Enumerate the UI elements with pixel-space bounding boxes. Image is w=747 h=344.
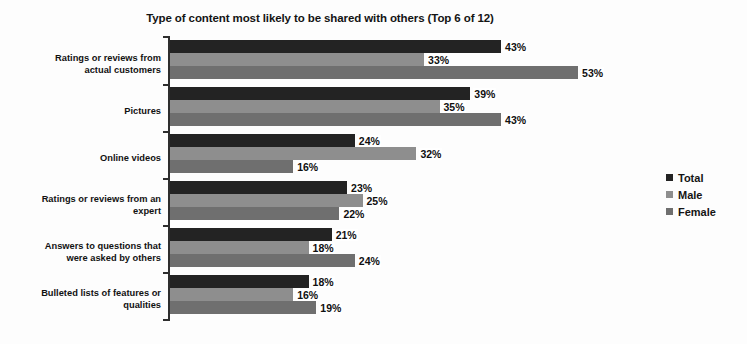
legend-swatch-icon bbox=[666, 191, 673, 198]
bar-row: 18% bbox=[170, 275, 640, 288]
bar-row: 16% bbox=[170, 288, 640, 301]
bar-row: 35% bbox=[170, 100, 640, 113]
category-label-line: were asked by others bbox=[1, 252, 161, 265]
axis-tick bbox=[163, 272, 169, 274]
bar-male[interactable] bbox=[170, 53, 424, 66]
bar-row: 24% bbox=[170, 134, 640, 147]
axis-tick-bottom bbox=[163, 319, 169, 321]
category-label-line: qualities bbox=[1, 299, 161, 312]
category-label-line: actual customers bbox=[1, 64, 161, 77]
bar-row: 25% bbox=[170, 194, 640, 207]
bar-row: 24% bbox=[170, 254, 640, 267]
bar-row: 39% bbox=[170, 87, 640, 100]
bar-male[interactable] bbox=[170, 194, 363, 207]
bar-female[interactable] bbox=[170, 113, 501, 126]
bar-group: Ratings or reviews fromactual customers4… bbox=[170, 40, 640, 87]
axis-tick bbox=[163, 225, 169, 227]
legend-item-female[interactable]: Female bbox=[666, 204, 746, 219]
bar-value-label: 43% bbox=[504, 114, 527, 126]
legend-item-male[interactable]: Male bbox=[666, 187, 746, 202]
bar-total[interactable] bbox=[170, 228, 332, 241]
bar-value-label: 43% bbox=[504, 41, 527, 53]
bar-value-label: 22% bbox=[342, 208, 365, 220]
category-label: Ratings or reviews fromactual customers bbox=[1, 51, 161, 76]
bar-row: 18% bbox=[170, 241, 640, 254]
bar-value-label: 19% bbox=[319, 302, 342, 314]
bar-row: 16% bbox=[170, 160, 640, 173]
bar-female[interactable] bbox=[170, 301, 316, 314]
axis-tick bbox=[163, 178, 169, 180]
legend-label: Total bbox=[678, 172, 703, 184]
chart-title: Type of content most likely to be shared… bbox=[0, 12, 640, 24]
axis-tick bbox=[163, 84, 169, 86]
bar-male[interactable] bbox=[170, 147, 416, 160]
category-label: Pictures bbox=[1, 104, 161, 117]
bar-male[interactable] bbox=[170, 100, 440, 113]
bar-value-label: 21% bbox=[335, 229, 358, 241]
plot-area: Ratings or reviews fromactual customers4… bbox=[170, 38, 640, 320]
category-label-line: Ratings or reviews from an bbox=[1, 192, 161, 205]
bar-total[interactable] bbox=[170, 275, 309, 288]
bar-row: 21% bbox=[170, 228, 640, 241]
bar-row: 23% bbox=[170, 181, 640, 194]
chart-legend: TotalMaleFemale bbox=[666, 170, 746, 221]
category-label-line: Answers to questions that bbox=[1, 239, 161, 252]
category-label-line: Ratings or reviews from bbox=[1, 51, 161, 64]
legend-swatch-icon bbox=[666, 174, 673, 181]
bar-row: 43% bbox=[170, 40, 640, 53]
bar-group: Online videos24%32%16% bbox=[170, 134, 640, 181]
bar-value-label: 23% bbox=[350, 182, 373, 194]
category-label: Online videos bbox=[1, 151, 161, 164]
bar-total[interactable] bbox=[170, 87, 470, 100]
category-label-line: Pictures bbox=[1, 104, 161, 117]
bar-group: Answers to questions thatwere asked by o… bbox=[170, 228, 640, 275]
category-label-line: Online videos bbox=[1, 151, 161, 164]
bar-value-label: 16% bbox=[296, 289, 319, 301]
bar-total[interactable] bbox=[170, 134, 355, 147]
bar-value-label: 16% bbox=[296, 161, 319, 173]
category-label: Ratings or reviews from anexpert bbox=[1, 192, 161, 217]
bar-female[interactable] bbox=[170, 66, 578, 79]
bar-row: 53% bbox=[170, 66, 640, 79]
bar-male[interactable] bbox=[170, 288, 293, 301]
bar-row: 43% bbox=[170, 113, 640, 126]
bar-row: 22% bbox=[170, 207, 640, 220]
bar-value-label: 32% bbox=[419, 148, 442, 160]
bar-female[interactable] bbox=[170, 254, 355, 267]
bar-total[interactable] bbox=[170, 181, 347, 194]
bar-group: Ratings or reviews from anexpert23%25%22… bbox=[170, 181, 640, 228]
category-label: Answers to questions thatwere asked by o… bbox=[1, 239, 161, 264]
bar-value-label: 18% bbox=[312, 242, 335, 254]
legend-item-total[interactable]: Total bbox=[666, 170, 746, 185]
bar-value-label: 24% bbox=[358, 135, 381, 147]
bar-total[interactable] bbox=[170, 40, 501, 53]
legend-label: Male bbox=[678, 189, 702, 201]
category-label: Bulleted lists of features orqualities bbox=[1, 286, 161, 311]
bar-row: 32% bbox=[170, 147, 640, 160]
bar-male[interactable] bbox=[170, 241, 309, 254]
bar-value-label: 33% bbox=[427, 54, 450, 66]
bar-value-label: 35% bbox=[443, 101, 466, 113]
bar-value-label: 39% bbox=[473, 88, 496, 100]
bar-value-label: 24% bbox=[358, 255, 381, 267]
axis-tick-top bbox=[163, 36, 169, 38]
bar-row: 19% bbox=[170, 301, 640, 314]
legend-swatch-icon bbox=[666, 208, 673, 215]
category-label-line: expert bbox=[1, 205, 161, 218]
bar-value-label: 53% bbox=[581, 67, 604, 79]
bar-value-label: 18% bbox=[312, 276, 335, 288]
chart-container: Type of content most likely to be shared… bbox=[0, 0, 747, 344]
axis-tick bbox=[163, 131, 169, 133]
bar-female[interactable] bbox=[170, 160, 293, 173]
bar-female[interactable] bbox=[170, 207, 339, 220]
category-label-line: Bulleted lists of features or bbox=[1, 286, 161, 299]
bar-group: Bulleted lists of features orqualities18… bbox=[170, 275, 640, 322]
legend-label: Female bbox=[678, 206, 716, 218]
bar-value-label: 25% bbox=[366, 195, 389, 207]
bar-row: 33% bbox=[170, 53, 640, 66]
bar-group: Pictures39%35%43% bbox=[170, 87, 640, 134]
